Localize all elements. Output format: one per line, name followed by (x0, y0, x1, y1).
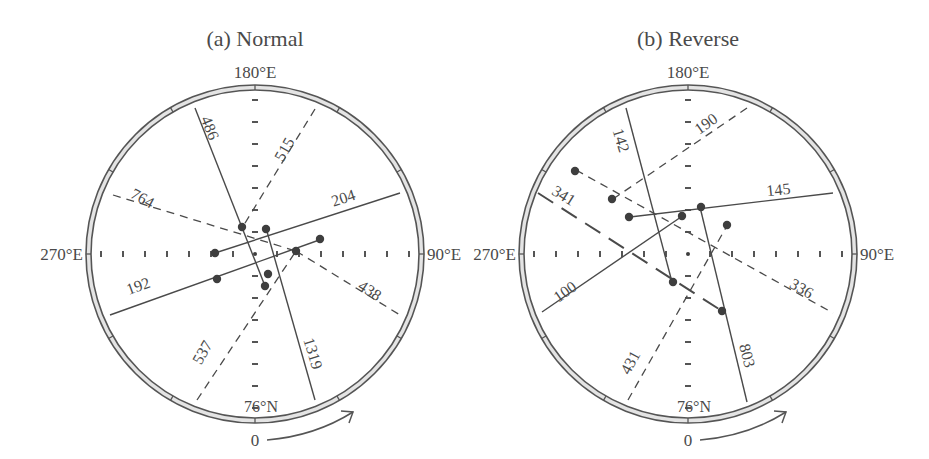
line-label: 142 (610, 126, 633, 154)
center-mark (686, 252, 690, 256)
line-label: 336 (787, 275, 816, 302)
stereonet-figure: (a) Normal180°E270°E90°E76°N048613192041… (0, 0, 929, 459)
trace-line-537 (197, 251, 296, 400)
trace-line-431 (628, 224, 728, 400)
arrow-start-label: 0 (251, 431, 260, 450)
line-label: 1319 (300, 336, 326, 372)
pole-dot (213, 275, 221, 283)
label-270e: 270°E (40, 245, 83, 264)
line-label: 192 (124, 274, 152, 298)
trace-line-145 (630, 193, 833, 217)
pole-dot (261, 282, 269, 290)
pole-dot (571, 167, 579, 175)
label-90e: 90°E (427, 245, 461, 264)
panel-a: (a) Normal180°E270°E90°E76°N048613192041… (40, 26, 461, 450)
line-label: 803 (736, 342, 759, 370)
pole-dot (292, 247, 300, 255)
label-270e: 270°E (473, 245, 516, 264)
pole-dot (697, 203, 705, 211)
panel-b: (b) Reverse180°E270°E90°E76°N01428031451… (473, 26, 894, 450)
pole-dot (625, 213, 633, 221)
label-180e: 180°E (667, 63, 710, 82)
pole-dot (608, 195, 616, 203)
line-label: 764 (128, 185, 157, 211)
line-label: 438 (355, 277, 384, 304)
pole-dot (262, 225, 270, 233)
line-label: 431 (617, 348, 643, 377)
pole-dot (718, 307, 726, 315)
label-76n: 76°N (677, 398, 711, 415)
panel-title: (a) Normal (206, 26, 303, 51)
line-label: 537 (189, 338, 216, 367)
trace-line-803 (700, 207, 747, 402)
label-90e: 90°E (860, 245, 894, 264)
line-label: 204 (329, 186, 357, 210)
trace-line-515 (242, 109, 315, 228)
line-label: 100 (550, 278, 579, 306)
pole-dot (723, 221, 731, 229)
line-label: 145 (766, 180, 792, 199)
pole-dot (678, 212, 686, 220)
pole-dot (316, 235, 324, 243)
label-180e: 180°E (234, 63, 277, 82)
pole-dot (669, 278, 677, 286)
pole-dot (238, 223, 246, 231)
line-label: 341 (549, 182, 578, 209)
pole-dot (211, 249, 219, 257)
line-label: 486 (198, 114, 223, 143)
trace-line-142 (626, 108, 672, 282)
trace-line-190 (613, 108, 747, 199)
panel-title: (b) Reverse (637, 26, 739, 51)
trace-line-1319 (266, 228, 315, 400)
arrow-start-label: 0 (684, 431, 693, 450)
line-label: 190 (691, 110, 720, 138)
label-76n: 76°N (244, 398, 278, 415)
trace-line-438 (296, 251, 400, 315)
pole-dot (264, 270, 272, 278)
line-label: 515 (271, 135, 298, 164)
